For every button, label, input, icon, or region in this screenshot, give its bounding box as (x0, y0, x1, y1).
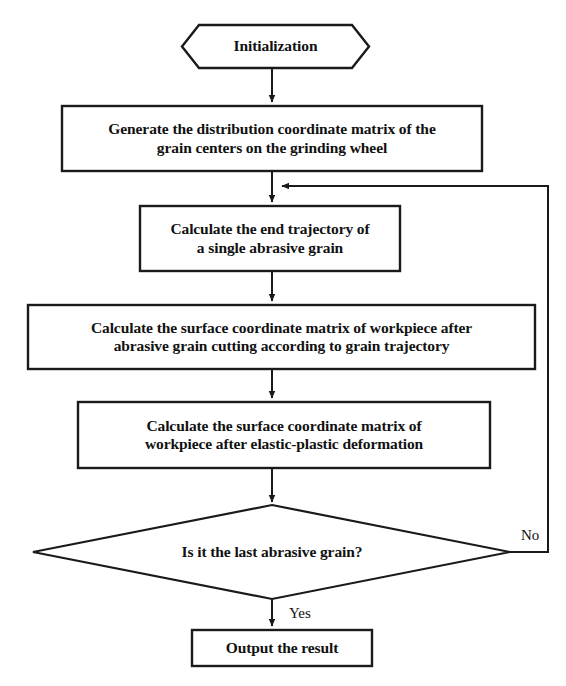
shape-step2-rect (140, 206, 400, 271)
shape-start-hexagon (182, 25, 369, 68)
shape-decision-diamond (33, 505, 510, 599)
flowchart-canvas (0, 0, 566, 686)
shape-step1-rect (62, 106, 482, 171)
shape-step4-rect (78, 402, 490, 468)
shape-end-rect (192, 630, 372, 666)
shape-step3-rect (28, 305, 535, 369)
flowchart-diagram: Initialization Generate the distribution… (0, 0, 566, 686)
